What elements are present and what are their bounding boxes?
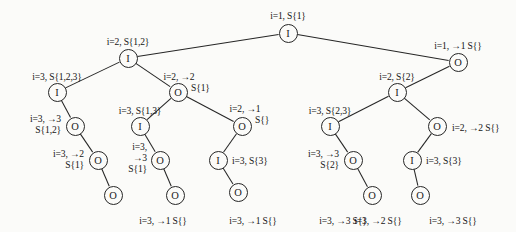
tree-label-l16: i=3, [132, 141, 147, 152]
tree-node-n11[interactable]: O [89, 151, 108, 170]
tree-node-n19[interactable]: O [363, 186, 382, 205]
tree-edge-n12-n17 [164, 169, 172, 187]
tree-node-n15[interactable]: I [403, 151, 422, 170]
tree-node-n4[interactable]: O [169, 83, 188, 102]
tree-label-l7: i=3, →3 [30, 113, 61, 124]
tree-label-l5: S{1} [191, 82, 210, 93]
tree-node-n2[interactable]: O [449, 53, 468, 72]
tree-label-l23: i=3, →1 S{} [139, 215, 186, 226]
tree-node-n20[interactable]: O [411, 186, 430, 205]
tree-label-l0: i=1, S{1} [270, 10, 306, 21]
tree-node-n7[interactable]: I [131, 117, 150, 136]
tree-node-n3[interactable]: I [48, 83, 67, 102]
tree-label-l3: i=3, S{1,2,3} [32, 71, 81, 82]
tree-label-l6: i=2, S{2} [379, 71, 415, 82]
tree-node-n16[interactable]: O [104, 186, 123, 205]
tree-label-l1: i=2, S{1,2} [107, 36, 150, 47]
tree-edge-n0-n2 [297, 35, 448, 61]
tree-edge-n11-n16 [102, 169, 110, 187]
search-tree-figure: IIOIOIOIOIOOOIOIOOOOO i=1, S{1}i=2, S{1,… [0, 0, 516, 232]
tree-edge-n5-n10 [404, 98, 430, 120]
tree-label-l20: i=3, →3 [308, 148, 339, 159]
tree-label-l10: i=2, →1 [229, 103, 260, 114]
tree-label-l26: i=3, →2 S{} [354, 215, 401, 226]
tree-edge-n3-n6 [61, 100, 70, 117]
tree-node-n1[interactable]: I [119, 49, 138, 68]
tree-edge-n4-n8 [186, 96, 233, 121]
tree-node-n8[interactable]: O [233, 117, 252, 136]
tree-label-l19: i=3, S{3} [232, 155, 268, 166]
tree-label-l27: i=3, →3 S{} [429, 215, 476, 226]
tree-label-l2: i=1, →1 S{} [434, 40, 481, 51]
tree-label-l4: i=2, →2 [163, 71, 194, 82]
tree-label-l9: i=3, S{1,3} [119, 105, 162, 116]
tree-edge-n8-n13 [223, 134, 236, 152]
tree-label-l18: S{1} [128, 163, 147, 174]
tree-label-l14: i=3, →2 [53, 148, 84, 159]
tree-edge-n13-n18 [223, 168, 233, 184]
tree-edge-n0-n1 [137, 34, 278, 56]
tree-node-n9[interactable]: I [321, 117, 340, 136]
tree-node-n12[interactable]: O [151, 151, 170, 170]
tree-edge-n10-n15 [418, 134, 432, 153]
tree-label-l15: S{1} [65, 159, 84, 170]
tree-label-l13: i=2, →2 S{} [452, 122, 499, 133]
tree-label-l17: →3 [133, 152, 147, 163]
tree-label-l12: i=3, S{2,3} [309, 105, 352, 116]
tree-label-l8: S{1,2} [35, 124, 61, 135]
tree-label-l24: i=3, →1 S{} [229, 215, 276, 226]
tree-node-n13[interactable]: I [209, 151, 228, 170]
tree-node-n17[interactable]: O [166, 186, 185, 205]
tree-node-n0[interactable]: I [279, 24, 298, 43]
tree-label-l11: S{} [255, 114, 269, 125]
tree-node-n5[interactable]: I [388, 83, 407, 102]
tree-label-l22: i=3, S{3} [426, 155, 462, 166]
tree-label-l21: S{2} [320, 159, 339, 170]
tree-edge-n14-n19 [358, 168, 368, 186]
tree-node-n10[interactable]: O [428, 117, 447, 136]
tree-node-n14[interactable]: O [344, 151, 363, 170]
tree-node-n6[interactable]: O [66, 117, 85, 136]
tree-node-n18[interactable]: O [229, 183, 248, 202]
tree-edge-n15-n20 [414, 169, 418, 185]
